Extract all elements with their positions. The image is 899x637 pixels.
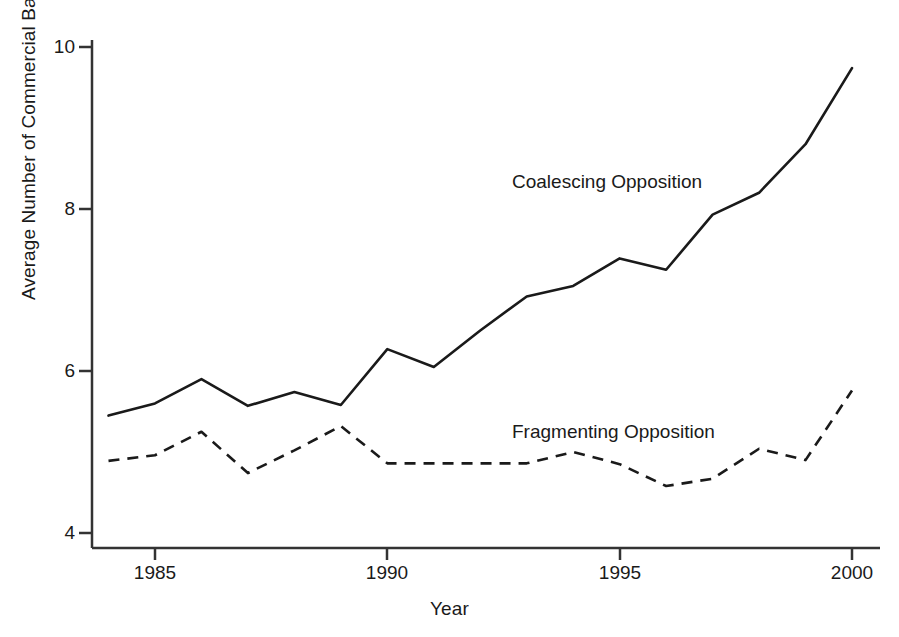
y-axis-ticks <box>79 47 92 533</box>
series-line-fragmenting-opposition <box>109 390 853 486</box>
series-line-coalescing-opposition <box>109 68 853 415</box>
plot-area <box>0 0 899 637</box>
chart-figure: Average Number of Commercial Banks Year … <box>0 0 899 637</box>
x-axis-ticks <box>155 548 852 560</box>
